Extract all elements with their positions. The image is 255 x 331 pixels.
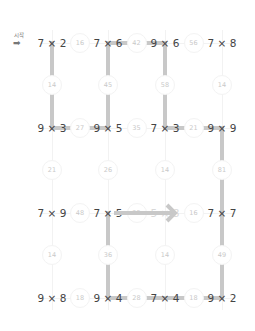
path-end-arrow-icon [0,0,255,331]
